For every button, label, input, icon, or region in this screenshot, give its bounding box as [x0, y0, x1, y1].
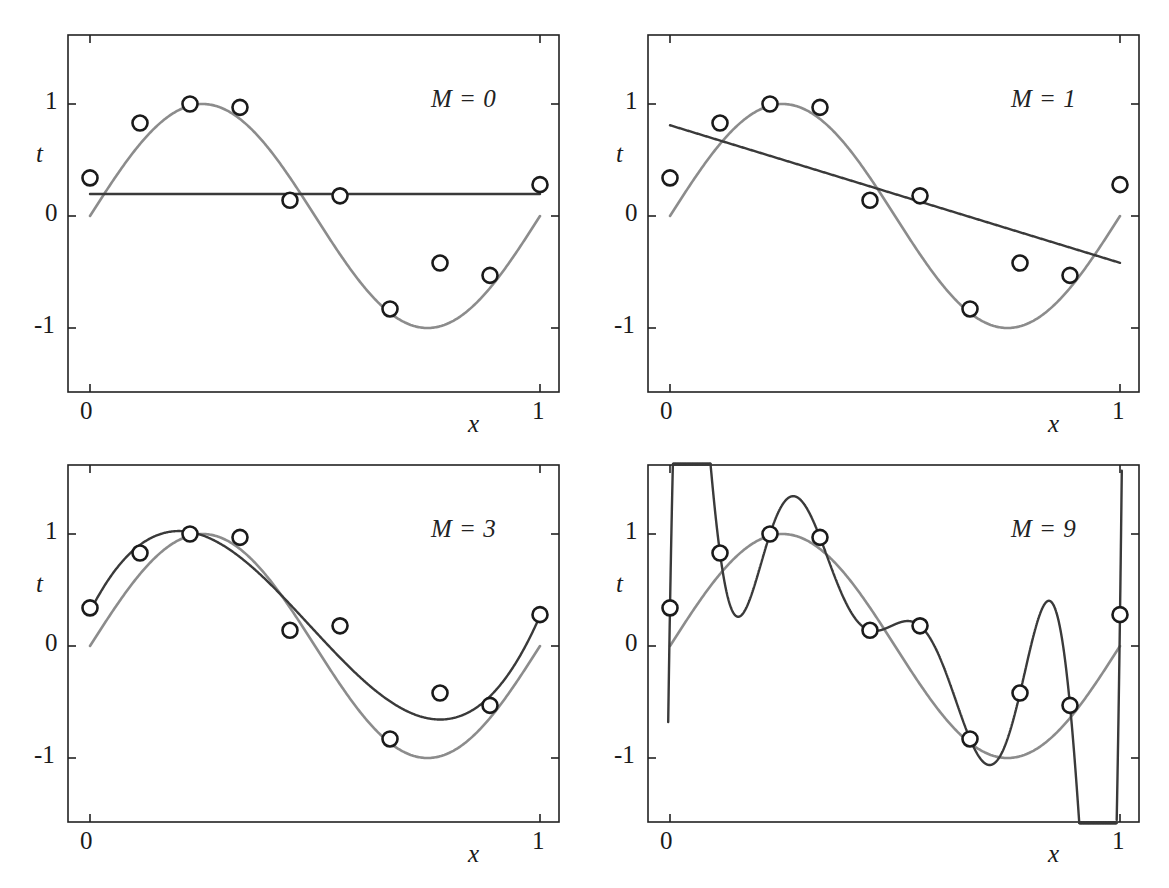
x-axis-label-m1: x	[1048, 410, 1059, 438]
x-tick-1-m9: 1	[1112, 827, 1125, 855]
data-point	[83, 170, 98, 185]
data-point	[963, 301, 978, 316]
plot-area-m0	[8, 12, 568, 452]
panel-m9: M = 9 t x 0 1 1 0 -1	[588, 442, 1148, 882]
x-tick-1-m1: 1	[1112, 397, 1125, 425]
x-tick-0-m3: 0	[80, 827, 93, 855]
data-point	[762, 527, 777, 542]
y-tick-1-m0: 1	[45, 87, 58, 115]
y-axis-label-m3: t	[36, 570, 43, 598]
data-point	[862, 623, 877, 638]
panel-label-m1: M = 1	[1011, 85, 1076, 113]
data-point	[713, 546, 728, 561]
panel-m3: M = 3 t x 0 1 1 0 -1	[8, 442, 568, 882]
y-axis-label-m9: t	[616, 570, 623, 598]
data-point	[83, 600, 98, 615]
y-axis-label-m1: t	[616, 140, 623, 168]
data-point	[1013, 256, 1028, 271]
data-point	[182, 97, 197, 112]
data-point	[963, 731, 978, 746]
true-function-curve	[90, 534, 540, 758]
data-point	[282, 193, 297, 208]
true-function-curve	[670, 534, 1120, 758]
plot-area-m9	[588, 442, 1148, 882]
data-point	[1113, 607, 1128, 622]
data-point	[812, 100, 827, 115]
data-point	[862, 193, 877, 208]
panel-m0: M = 0 t x 0 1 1 0 -1	[8, 12, 568, 452]
y-tick-neg1-m0: -1	[34, 311, 55, 339]
x-tick-0-m0: 0	[80, 397, 93, 425]
y-tick-0-m1: 0	[625, 199, 638, 227]
y-tick-1-m9: 1	[625, 517, 638, 545]
x-axis-label-m3: x	[468, 840, 479, 868]
data-point	[182, 527, 197, 542]
x-axis-label-m0: x	[468, 410, 479, 438]
data-point	[333, 188, 348, 203]
y-tick-0-m9: 0	[625, 629, 638, 657]
figure-polynomial-curve-fitting: M = 0 t x 0 1 1 0 -1 M = 1 t x 0 1 1 0 -…	[0, 0, 1169, 888]
x-tick-0-m9: 0	[660, 827, 673, 855]
data-point	[483, 268, 498, 283]
plot-area-m3	[8, 442, 568, 882]
data-point	[232, 100, 247, 115]
true-function-curve	[670, 104, 1120, 328]
x-tick-0-m1: 0	[660, 397, 673, 425]
data-point	[1013, 686, 1028, 701]
data-point	[1063, 268, 1078, 283]
y-tick-0-m3: 0	[45, 629, 58, 657]
true-function-curve	[90, 104, 540, 328]
data-point	[663, 170, 678, 185]
data-point	[1113, 177, 1128, 192]
y-tick-neg1-m9: -1	[614, 741, 635, 769]
plot-area-m1	[588, 12, 1148, 452]
x-tick-1-m0: 1	[532, 397, 545, 425]
panel-label-m9: M = 9	[1011, 515, 1076, 543]
y-tick-0-m0: 0	[45, 199, 58, 227]
data-point	[383, 731, 398, 746]
data-point	[282, 623, 297, 638]
data-point	[762, 97, 777, 112]
y-axis-label-m0: t	[36, 140, 43, 168]
data-point	[533, 177, 548, 192]
panel-label-m3: M = 3	[431, 515, 496, 543]
data-point	[433, 686, 448, 701]
data-point	[533, 607, 548, 622]
data-point	[232, 530, 247, 545]
data-point	[333, 618, 348, 633]
data-point	[133, 546, 148, 561]
panel-label-m0: M = 0	[431, 85, 496, 113]
y-tick-1-m3: 1	[45, 517, 58, 545]
data-point	[483, 698, 498, 713]
data-point	[913, 618, 928, 633]
data-point	[913, 188, 928, 203]
data-point	[713, 116, 728, 131]
data-point	[1063, 698, 1078, 713]
y-tick-1-m1: 1	[625, 87, 638, 115]
data-point	[812, 530, 827, 545]
fitted-polynomial-curve	[670, 125, 1120, 263]
y-tick-neg1-m1: -1	[614, 311, 635, 339]
panel-m1: M = 1 t x 0 1 1 0 -1	[588, 12, 1148, 452]
x-axis-label-m9: x	[1048, 840, 1059, 868]
data-point	[133, 116, 148, 131]
x-tick-1-m3: 1	[532, 827, 545, 855]
data-point	[383, 301, 398, 316]
data-point	[663, 600, 678, 615]
y-tick-neg1-m3: -1	[34, 741, 55, 769]
data-point	[433, 256, 448, 271]
fitted-polynomial-curve	[90, 531, 540, 719]
